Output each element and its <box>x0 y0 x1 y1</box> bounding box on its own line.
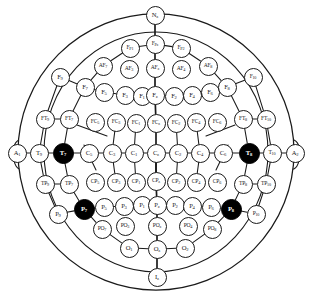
electrode-af3[interactable]: AF3 <box>120 60 139 79</box>
electrode-c3[interactable]: C3 <box>103 144 122 163</box>
electrode-label: TP9 <box>41 181 49 187</box>
electrode-o1[interactable]: O1 <box>120 239 139 258</box>
electrode-label: Fz <box>152 92 157 99</box>
electrode-cp6[interactable]: CP6 <box>208 173 227 192</box>
electrode-cp1[interactable]: CP1 <box>127 173 146 192</box>
electrode-p4[interactable]: P4 <box>183 197 202 216</box>
electrode-f5[interactable]: F5 <box>95 83 114 102</box>
electrode-label: F2 <box>171 93 177 100</box>
electrode-p3[interactable]: P3 <box>115 197 134 216</box>
electrode-t10[interactable]: T10 <box>263 144 282 163</box>
electrode-fz[interactable]: Fz <box>146 86 165 105</box>
electrode-t8[interactable]: T8 <box>239 143 260 164</box>
electrode-o2[interactable]: O2 <box>176 239 195 258</box>
electrode-af7[interactable]: AF7 <box>94 57 113 76</box>
electrode-f4[interactable]: F4 <box>183 86 202 105</box>
electrode-label: F5 <box>101 89 107 96</box>
electrode-fc1[interactable]: FC1 <box>127 114 146 133</box>
electrode-ft7[interactable]: FT7 <box>60 110 79 129</box>
electrode-c1[interactable]: C1 <box>125 144 144 163</box>
electrode-f10[interactable]: F10 <box>244 68 263 87</box>
electrode-fc2[interactable]: FC2 <box>167 114 186 133</box>
electrode-label: PO7 <box>98 226 107 232</box>
electrode-p5[interactable]: P5 <box>95 198 114 217</box>
electrode-label: C1 <box>131 150 137 157</box>
electrode-p2[interactable]: P2 <box>166 196 185 215</box>
electrode-a2[interactable]: A2 <box>286 144 305 163</box>
electrode-c5[interactable]: C5 <box>80 144 99 163</box>
electrode-poz[interactable]: POz <box>148 217 167 236</box>
electrode-label: F7 <box>82 84 88 91</box>
electrode-label: AF7 <box>99 63 108 69</box>
electrode-fc6[interactable]: FC6 <box>208 113 227 132</box>
electrode-fc3[interactable]: FC3 <box>107 113 126 132</box>
electrode-p6[interactable]: P6 <box>202 198 221 217</box>
electrode-label: FT9 <box>41 116 49 122</box>
electrode-label: P5 <box>101 204 107 211</box>
electrode-t9[interactable]: T9 <box>30 144 49 163</box>
electrode-label: F6 <box>207 89 213 96</box>
electrode-afz[interactable]: AFz <box>146 59 165 78</box>
electrode-a1[interactable]: A1 <box>8 144 27 163</box>
electrode-f6[interactable]: F6 <box>201 83 220 102</box>
electrode-label: F4 <box>189 92 195 99</box>
electrode-tp8[interactable]: TP8 <box>234 175 253 194</box>
electrode-label: A2 <box>292 150 299 157</box>
electrode-pz[interactable]: Pz <box>148 196 167 215</box>
electrode-p10[interactable]: P10 <box>247 205 266 224</box>
electrode-label: C6 <box>220 150 226 157</box>
electrode-nz[interactable]: Nz <box>146 6 165 25</box>
electrode-label: P8 <box>228 206 234 213</box>
electrode-po3[interactable]: PO3 <box>116 217 135 236</box>
electrode-fp2[interactable]: FP2 <box>172 39 191 58</box>
electrode-p8[interactable]: P8 <box>221 199 242 220</box>
electrode-po8[interactable]: PO8 <box>203 220 222 239</box>
eeg-montage-diagram: NzFP1FPzFP2AF7AF3AFzAF4AF8F9F7F5F3F1FzF2… <box>0 0 313 293</box>
electrode-ft10[interactable]: FT10 <box>257 110 276 129</box>
electrode-p9[interactable]: P9 <box>49 205 68 224</box>
electrode-label: F8 <box>224 84 230 91</box>
electrode-po4[interactable]: PO4 <box>179 217 198 236</box>
electrode-iz[interactable]: Iz <box>148 268 167 287</box>
electrode-fc5[interactable]: FC5 <box>86 113 105 132</box>
electrode-label: F10 <box>250 74 257 80</box>
electrode-label: P2 <box>172 202 178 209</box>
electrode-label: C4 <box>197 150 203 157</box>
electrode-label: CP2 <box>172 179 180 185</box>
electrode-af8[interactable]: AF8 <box>199 57 218 76</box>
electrode-label: F1 <box>139 93 145 100</box>
electrode-label: C5 <box>86 150 92 157</box>
electrode-cp2[interactable]: CP2 <box>167 173 186 192</box>
electrode-cz[interactable]: Cz <box>147 144 166 163</box>
electrode-fpz[interactable]: FPz <box>146 35 165 54</box>
electrode-f7[interactable]: F7 <box>76 78 95 97</box>
electrode-tp10[interactable]: TP10 <box>257 175 276 194</box>
electrode-fp1[interactable]: FP1 <box>121 39 140 58</box>
electrode-label: T9 <box>36 150 42 157</box>
electrode-label: POz <box>153 223 161 229</box>
electrode-label: TP8 <box>239 181 247 187</box>
electrode-t7[interactable]: T7 <box>53 143 74 164</box>
electrode-cp3[interactable]: CP3 <box>107 173 126 192</box>
electrode-c2[interactable]: C2 <box>169 144 188 163</box>
electrode-tp9[interactable]: TP9 <box>36 175 55 194</box>
electrode-f8[interactable]: F8 <box>218 78 237 97</box>
electrode-ft8[interactable]: FT8 <box>234 110 253 129</box>
electrode-po7[interactable]: PO7 <box>93 220 112 239</box>
electrode-c6[interactable]: C6 <box>214 144 233 163</box>
electrode-f9[interactable]: F9 <box>51 68 70 87</box>
electrode-f3[interactable]: F3 <box>116 86 135 105</box>
electrode-fcz[interactable]: FCz <box>147 114 166 133</box>
electrode-ft9[interactable]: FT9 <box>36 110 55 129</box>
electrode-label: TP7 <box>65 181 73 187</box>
electrode-cpz[interactable]: CPz <box>147 172 166 191</box>
electrode-cp4[interactable]: CP4 <box>187 173 206 192</box>
electrode-tp7[interactable]: TP7 <box>60 175 79 194</box>
electrode-p7[interactable]: P7 <box>74 199 95 220</box>
electrode-fc4[interactable]: FC4 <box>187 113 206 132</box>
electrode-cp5[interactable]: CP5 <box>86 173 105 192</box>
electrode-af4[interactable]: AF4 <box>172 60 191 79</box>
electrode-oz[interactable]: Oz <box>148 240 167 259</box>
electrode-f2[interactable]: F2 <box>165 87 184 106</box>
electrode-c4[interactable]: C4 <box>191 144 210 163</box>
